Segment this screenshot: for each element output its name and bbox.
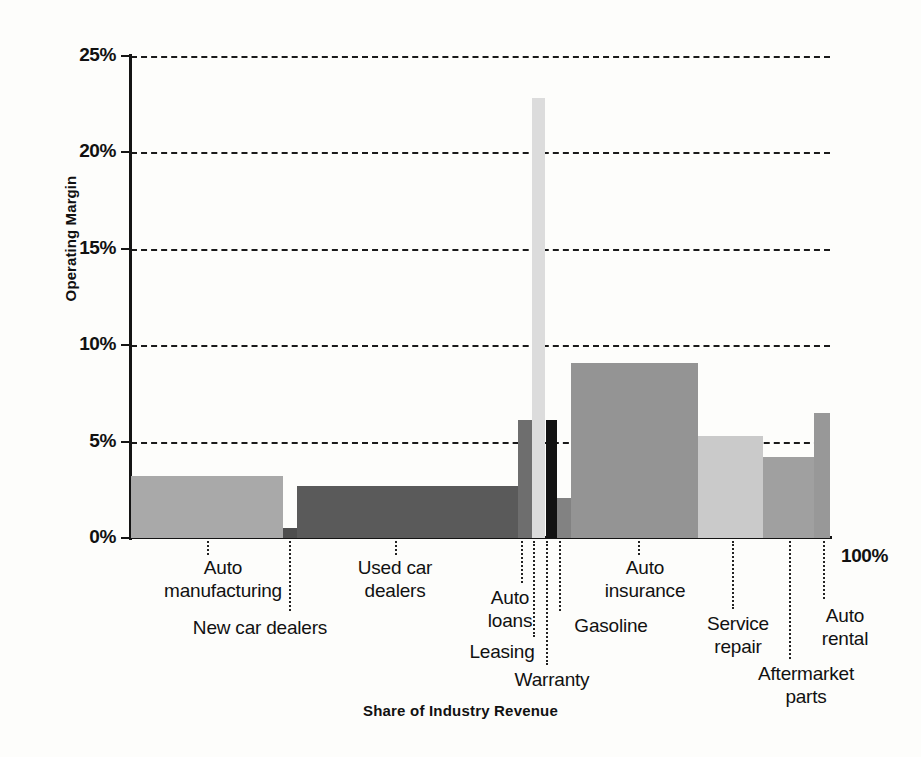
- bar-auto-loans: [518, 420, 531, 538]
- bar-new-car-dealers: [283, 528, 298, 538]
- y-tick-label: 10%: [40, 333, 116, 355]
- leader-line: [207, 541, 209, 555]
- category-label-gasoline: Gasoline: [556, 614, 666, 637]
- y-tick-label: 20%: [40, 140, 116, 162]
- leader-line: [559, 541, 561, 611]
- category-label-auto-loans: Auto loans: [470, 586, 550, 632]
- bar-used-car-dealers: [297, 486, 518, 538]
- category-label-service-repair: Service repair: [678, 612, 798, 658]
- category-label-auto-manufacturing: Auto manufacturing: [148, 556, 298, 602]
- leader-line: [521, 541, 523, 583]
- leader-line: [823, 541, 825, 599]
- y-tick-label: 0%: [40, 526, 116, 548]
- category-label-new-car-dealers: New car dealers: [160, 616, 360, 639]
- plot-area: [131, 56, 830, 538]
- y-tick-label: 25%: [40, 44, 116, 66]
- bar-leasing: [532, 98, 546, 538]
- operating-margin-vs-revenue-share-chart: Operating Margin 0%5%10%15%20%25% Auto m…: [0, 0, 921, 757]
- bar-service-repair: [698, 436, 763, 538]
- x-axis-title: Share of Industry Revenue: [0, 702, 921, 719]
- category-label-warranty: Warranty: [492, 668, 612, 691]
- bar-auto-rental: [814, 413, 830, 538]
- bar-gasoline: [557, 498, 571, 538]
- category-label-auto-insurance: Auto insurance: [575, 556, 715, 602]
- bar-auto-manufacturing: [131, 476, 283, 538]
- category-label-auto-rental: Auto rental: [790, 604, 900, 650]
- x-axis-end-label: 100%: [841, 545, 888, 567]
- bar-auto-insurance: [571, 363, 698, 538]
- y-tick-label: 5%: [40, 430, 116, 452]
- category-label-used-car-dealers: Used car dealers: [320, 556, 470, 602]
- leader-line: [395, 541, 397, 555]
- leader-line: [638, 541, 640, 555]
- bar-aftermarket-parts: [763, 457, 814, 538]
- leader-line: [732, 541, 734, 609]
- y-tick-label: 15%: [40, 237, 116, 259]
- category-label-leasing: Leasing: [452, 640, 552, 663]
- bar-warranty: [546, 420, 557, 538]
